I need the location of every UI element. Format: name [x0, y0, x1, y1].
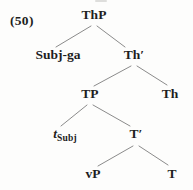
- tree-node-t-bar: T′: [130, 127, 143, 142]
- branch-thp-subjga: [56, 26, 91, 47]
- branch-tbar-vp: [98, 146, 133, 166]
- branch-thp-thbar: [97, 26, 125, 47]
- branch-thbar-th: [137, 66, 167, 85]
- tree-node-th: Th: [162, 87, 179, 102]
- branch-tp-tbar: [93, 105, 130, 126]
- tree-node-subj-ga: Subj-ga: [35, 48, 80, 63]
- trace-subscript: Subj: [57, 133, 77, 143]
- figure-syntax-tree: (50) ThP Subj-ga Th′ TP Th tSubj T′ vP T: [0, 0, 193, 190]
- branch-tp-tsubj: [61, 105, 87, 126]
- tree-node-th-bar: Th′: [124, 48, 144, 63]
- branch-tbar-t: [139, 146, 168, 165]
- tree-node-subject-trace: tSubj: [53, 127, 77, 143]
- tree-node-vp: vP: [86, 167, 101, 182]
- tree-node-tp: TP: [81, 87, 98, 102]
- tree-node-t: T: [167, 167, 176, 182]
- branch-thbar-tp: [94, 66, 131, 86]
- tree-node-thp: ThP: [82, 8, 107, 23]
